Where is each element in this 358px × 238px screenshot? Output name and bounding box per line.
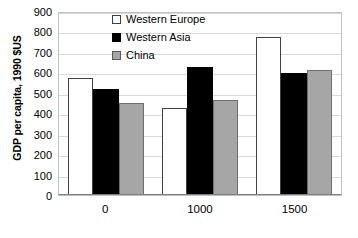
black-square-icon — [112, 33, 121, 42]
bar[interactable] — [307, 70, 332, 195]
x-axis-tick-label: 1500 — [256, 203, 333, 215]
x-axis-tick-labels: 010001500 — [58, 203, 342, 215]
bar[interactable] — [119, 103, 144, 195]
bar-group — [256, 13, 332, 195]
y-axis-tick-label: 100 — [18, 170, 52, 181]
bar[interactable] — [162, 108, 187, 195]
bar[interactable] — [256, 37, 281, 195]
bar[interactable] — [68, 78, 93, 195]
legend-item[interactable]: China — [112, 50, 205, 61]
legend-item[interactable]: Western Europe — [112, 14, 205, 25]
legend-item[interactable]: Western Asia — [112, 32, 205, 43]
chart-legend: Western EuropeWestern AsiaChina — [112, 14, 205, 61]
x-axis-tick-label: 1000 — [162, 203, 239, 215]
legend-label: China — [126, 50, 155, 61]
y-axis-tick-label: 600 — [18, 68, 52, 79]
x-axis-tick-label: 0 — [67, 203, 144, 215]
white-square-outline-icon — [112, 15, 121, 24]
y-axis-tick-label: 200 — [18, 150, 52, 161]
y-axis-tick-label: 900 — [18, 7, 52, 18]
axis-baseline — [59, 194, 341, 195]
y-axis-tick-label: 400 — [18, 109, 52, 120]
bar[interactable] — [93, 89, 118, 195]
y-axis-tick-labels: 9008007006005004003002001000 — [18, 12, 52, 196]
legend-label: Western Asia — [126, 32, 191, 43]
y-axis-tick-label: 700 — [18, 47, 52, 58]
y-axis-tick-label: 800 — [18, 27, 52, 38]
y-axis-tick-label: 300 — [18, 129, 52, 140]
gray-square-icon — [112, 51, 121, 60]
bar[interactable] — [187, 67, 212, 195]
bar[interactable] — [281, 73, 306, 195]
bar[interactable] — [213, 100, 238, 195]
y-axis-tick-label: 500 — [18, 88, 52, 99]
legend-label: Western Europe — [126, 14, 205, 25]
bar-chart: GDP per capita, 1990 $US 900800700600500… — [0, 0, 358, 238]
y-axis-tick-label: 0 — [18, 191, 52, 202]
